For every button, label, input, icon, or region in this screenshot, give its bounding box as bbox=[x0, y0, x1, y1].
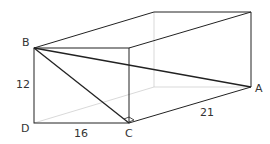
label-A: A bbox=[255, 82, 263, 95]
height-label: 12 bbox=[16, 78, 30, 91]
label-C: C bbox=[125, 127, 133, 140]
prism-diagram: B A C D 12 16 21 bbox=[0, 0, 270, 144]
length-label: 21 bbox=[200, 106, 214, 119]
diagonals bbox=[34, 48, 251, 123]
label-D: D bbox=[21, 122, 29, 135]
label-B: B bbox=[22, 36, 30, 49]
width-label: 16 bbox=[74, 127, 88, 140]
